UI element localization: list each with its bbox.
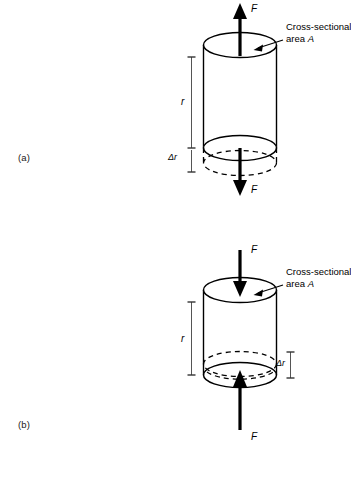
length-label-r: r	[181, 96, 184, 107]
area-caption-line2: area	[286, 33, 305, 44]
panel-label-b: (b)	[18, 419, 30, 430]
length-label-r: r	[181, 333, 184, 344]
panel-label-a: (a)	[18, 152, 30, 163]
force-label-bottom: F	[251, 184, 257, 195]
force-label-top: F	[251, 244, 257, 255]
delta-length-label: Δr	[168, 152, 177, 162]
panel-compression: F F Cross-sectional area A r Δr (b)	[0, 242, 349, 483]
delta-length-label: Δr	[276, 358, 285, 368]
force-arrow-top-head	[233, 3, 247, 19]
panel-tension: F F Cross-sectional area A r Δr (a)	[0, 0, 349, 241]
area-symbol: A	[308, 33, 314, 44]
force-label-bottom: F	[251, 431, 257, 442]
force-label-top: F	[251, 3, 257, 14]
area-symbol: A	[308, 278, 314, 289]
area-caption-line1: Cross-sectional	[286, 21, 351, 32]
area-caption-line1: Cross-sectional	[286, 266, 351, 277]
area-caption-line2: area	[286, 278, 305, 289]
force-arrow-bottom-head	[233, 180, 247, 196]
